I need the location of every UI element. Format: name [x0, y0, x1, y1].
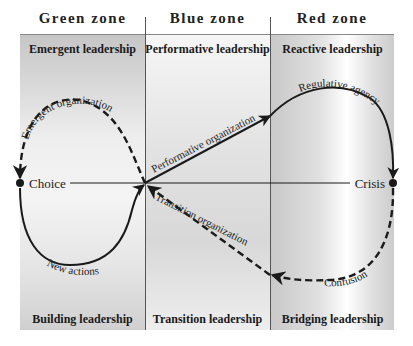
crisis-label: Crisis — [355, 176, 385, 191]
emergent-organization-label: Emergent organization — [18, 94, 115, 141]
confusion-path — [272, 188, 393, 280]
choice-label: Choice — [29, 176, 66, 191]
infinity-cycle-diagram: Choice Crisis Emergent organization New … — [0, 0, 413, 346]
new-actions-path — [20, 185, 144, 265]
choice-node — [16, 179, 24, 187]
performative-organization-label: Performative organization — [149, 111, 257, 175]
performative-organization-path — [145, 116, 270, 183]
transition-organization-label: Transition organization — [154, 190, 251, 247]
crisis-node — [389, 179, 397, 187]
new-actions-label: New actions — [45, 256, 99, 277]
confusion-label: Confusion — [324, 267, 370, 288]
